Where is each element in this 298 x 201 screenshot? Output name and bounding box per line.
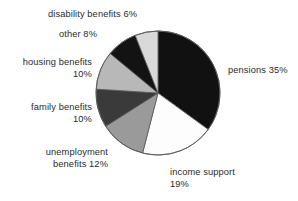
slice-label-housing-benefits: housing benefits 10% — [8, 56, 92, 80]
slice-label-pensions: pensions 35% — [228, 64, 298, 76]
slice-label-unemployment-benefits: unemployment benefits 12% — [12, 146, 108, 170]
slice-label-disability-benefits: disability benefits 6% — [48, 8, 164, 20]
slice-label-income-support: income support 19% — [170, 166, 280, 190]
pie-slice-group — [96, 31, 220, 155]
pie-chart: disability benefits 6% other 8% housing … — [0, 0, 298, 201]
slice-label-family-benefits: family benefits 10% — [8, 101, 92, 125]
slice-label-other: other 8% — [59, 28, 129, 40]
